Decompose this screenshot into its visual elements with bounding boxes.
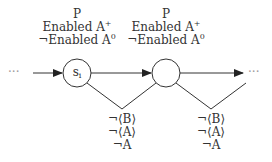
ellipsis-right: ··· [248, 66, 259, 79]
annotation-not-enabled-a-zero: ¬Enabled A0 [126, 34, 206, 47]
ellipsis-left: ··· [8, 66, 19, 79]
state-next [152, 59, 180, 87]
branch-2 [176, 83, 246, 109]
state-1-annotations: P Enabled A+ ¬Enabled A0 [37, 8, 117, 47]
annotation-not-enabled-a-zero: ¬Enabled A0 [37, 34, 117, 47]
branch-1 [87, 83, 156, 109]
branch-1-labels: ¬⟨B⟩ ¬⟨A⟩ ¬A [102, 113, 142, 152]
state-2-annotations: P Enabled A+ ¬Enabled A0 [126, 8, 206, 47]
state-si-label: si [69, 66, 85, 79]
branch-2-labels: ¬⟨B⟩ ¬⟨A⟩ ¬A [191, 113, 231, 152]
